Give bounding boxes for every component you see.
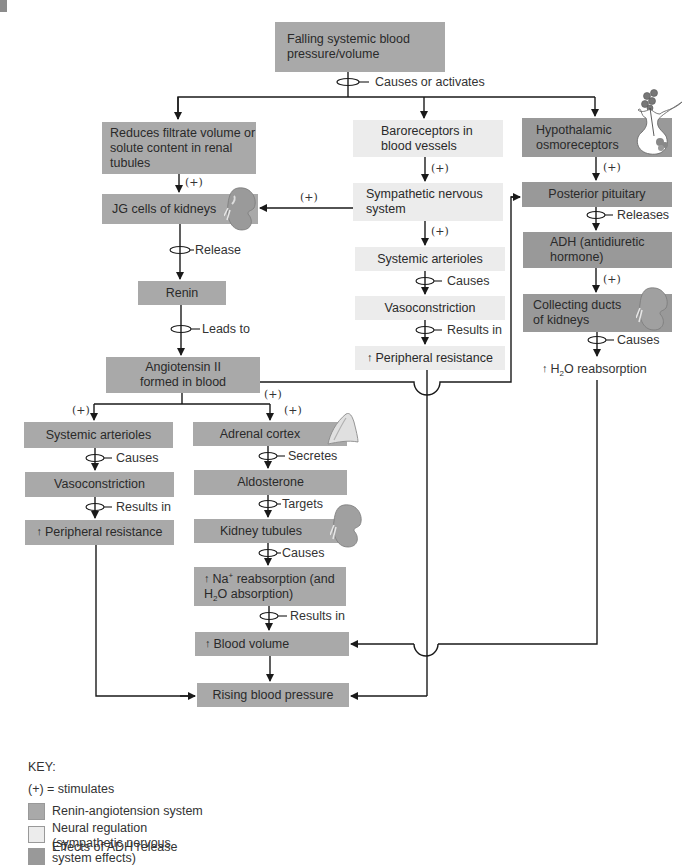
kidney-tubules-box: Kidney tubules — [194, 519, 346, 543]
adrenal-cortex-text: Adrenal cortex — [220, 427, 301, 442]
increase-arrow-icon: ↑ — [204, 571, 210, 586]
aldosterone-text: Aldosterone — [237, 475, 304, 490]
lower-systemic-arterioles-text: Systemic arterioles — [46, 428, 152, 443]
results-in-label: Results in — [447, 323, 502, 337]
key-label-renin-angiotensin: Renin-angiotension system — [52, 804, 203, 819]
plus-label: (+) — [431, 162, 449, 175]
sympathetic-nervous-box: Sympathetic nervous system — [353, 183, 503, 221]
vasoconstriction-box: Vasoconstriction — [355, 296, 505, 320]
plus-label: (+) — [264, 388, 282, 401]
targets-label: Targets — [282, 497, 323, 511]
renin-box: Renin — [138, 281, 226, 305]
systemic-arterioles-text: Systemic arterioles — [377, 252, 483, 267]
plus-label: (+) — [431, 225, 449, 238]
sympathetic-nervous-text: Sympathetic nervous system — [366, 187, 503, 217]
plus-label: (+) — [603, 161, 621, 174]
causes-label: Causes — [282, 546, 324, 560]
jg-cells-text: JG cells of kidneys — [112, 202, 216, 217]
adrenal-cortex-box: Adrenal cortex — [193, 422, 347, 446]
h2o-reabsorption-label: ↑H2O reabsorption — [542, 362, 647, 381]
adrenal-gland-icon — [326, 410, 360, 446]
systemic-arterioles-box: Systemic arterioles — [355, 247, 505, 271]
results-in-label: Results in — [116, 500, 171, 514]
increase-arrow-icon: ↑ — [37, 524, 43, 539]
lower-systemic-arterioles-box: Systemic arterioles — [24, 422, 173, 448]
kidney-tubules-text: Kidney tubules — [220, 524, 302, 539]
na-reabsorption-text: ↑Na+ reabsorption (and H2O absorption) — [204, 568, 335, 606]
falling-blood-pressure-box: Falling systemic blood pressure/volume — [275, 22, 445, 72]
posterior-pituitary-box: Posterior pituitary — [522, 182, 672, 207]
plus-label: (+) — [185, 176, 203, 189]
peripheral-resistance-box: ↑ Peripheral resistance — [355, 346, 505, 370]
release-label: Release — [195, 243, 241, 257]
key-title: KEY: — [28, 760, 56, 774]
key-swatch-adh-effects — [28, 848, 45, 865]
baroreceptors-box: Baroreceptors in blood vessels — [353, 120, 503, 157]
vasoconstriction-text: Vasoconstriction — [385, 301, 476, 316]
angiotensin-box: Angiotensin II formed in blood — [106, 357, 260, 393]
causes-label: Causes — [116, 451, 158, 465]
rising-blood-pressure-box: Rising blood pressure — [197, 683, 349, 707]
rising-blood-pressure-text: Rising blood pressure — [213, 688, 334, 703]
causes-label: Causes — [617, 333, 659, 347]
aldosterone-box: Aldosterone — [194, 470, 347, 495]
peripheral-resistance-text: Peripheral resistance — [376, 351, 493, 366]
adh-text: ADH (antidiuretic hormone) — [550, 235, 672, 265]
secretes-label: Secretes — [288, 449, 337, 463]
reduces-filtrate-box: Reduces filtrate volume or solute conten… — [102, 122, 256, 174]
plus-label: (+) — [300, 191, 318, 204]
baroreceptors-text: Baroreceptors in blood vessels — [381, 124, 503, 154]
key-plus-definition: (+) = stimulates — [28, 782, 114, 796]
blood-volume-box: ↑ Blood volume — [195, 632, 349, 656]
plus-label: (+) — [603, 273, 621, 286]
key-swatch-neural-regulation — [28, 826, 45, 843]
lower-peripheral-resistance-box: ↑ Peripheral resistance — [25, 520, 174, 545]
lower-vasoconstriction-text: Vasoconstriction — [54, 477, 145, 492]
key-swatch-renin-angiotensin — [28, 803, 45, 820]
posterior-pituitary-text: Posterior pituitary — [548, 187, 645, 202]
reduces-filtrate-text: Reduces filtrate volume or solute conten… — [110, 126, 256, 171]
plus-label: (+) — [284, 404, 302, 417]
key-label-adh-effects: Effects of ADH release — [52, 840, 178, 855]
increase-arrow-icon: ↑ — [367, 350, 373, 365]
angiotensin-text: Angiotensin II formed in blood — [126, 360, 240, 390]
lower-peripheral-resistance-text: Peripheral resistance — [45, 525, 162, 540]
leads-to-label: Leads to — [202, 322, 250, 336]
kidney-icon — [330, 503, 364, 549]
increase-arrow-icon: ↑ — [205, 636, 211, 651]
blood-volume-text: Blood volume — [214, 637, 290, 652]
increase-arrow-icon: ↑ — [542, 361, 548, 375]
na-reabsorption-box: ↑Na+ reabsorption (and H2O absorption) — [194, 567, 346, 606]
collecting-ducts-text: Collecting ducts of kidneys — [533, 298, 633, 328]
adh-box: ADH (antidiuretic hormone) — [523, 232, 672, 268]
causes-label: Causes — [447, 274, 489, 288]
falling-blood-pressure-text: Falling systemic blood pressure/volume — [287, 32, 445, 62]
lower-vasoconstriction-box: Vasoconstriction — [25, 472, 174, 497]
plus-label: (+) — [72, 404, 90, 417]
kidney-icon — [636, 286, 670, 332]
hypothalamus-pituitary-icon — [630, 88, 685, 158]
releases-label: Releases — [617, 208, 669, 222]
kidney-icon — [224, 186, 260, 232]
renin-text: Renin — [166, 286, 199, 301]
results-in-label: Results in — [290, 609, 345, 623]
causes-or-activates-label: Causes or activates — [375, 75, 485, 89]
